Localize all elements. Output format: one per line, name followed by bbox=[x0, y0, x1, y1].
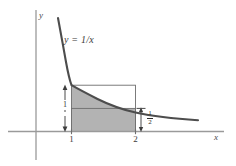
tick-label-x-1: 1 bbox=[66, 134, 77, 144]
y-axis-label: y bbox=[39, 10, 43, 20]
x-axis-label: x bbox=[214, 132, 218, 142]
inscribed-rectangle bbox=[72, 108, 136, 131]
fraction-denominator: 2 bbox=[145, 119, 155, 126]
function-label: y = 1/x bbox=[64, 34, 94, 45]
fraction-numerator: 1 bbox=[145, 110, 155, 117]
dimension-label-one: 1 bbox=[62, 100, 69, 110]
figure-container: y = 1/x y x 1 2 1 1 2 bbox=[0, 0, 236, 166]
dimension-label-one-half: 1 2 bbox=[145, 110, 155, 127]
arrowhead-up-left-dimension bbox=[63, 85, 68, 90]
tick-label-x-2: 2 bbox=[130, 134, 141, 144]
figure-canvas bbox=[0, 0, 236, 166]
